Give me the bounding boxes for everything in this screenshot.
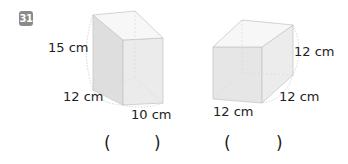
answer-close-paren-2: ) <box>276 133 283 153</box>
figures-canvas <box>0 0 348 164</box>
cube-depth-label: 12 cm <box>279 89 320 104</box>
cube-height-label: 12 cm <box>294 44 335 59</box>
cube-width-label: 12 cm <box>213 104 254 119</box>
cuboid-width-label: 10 cm <box>131 107 172 122</box>
cuboid-height-label: 15 cm <box>48 40 89 55</box>
answer-close-paren-1: ) <box>154 133 161 153</box>
answer-open-paren-2: ( <box>224 133 231 153</box>
answer-open-paren-1: ( <box>104 133 111 153</box>
cuboid-depth-label: 12 cm <box>63 89 104 104</box>
